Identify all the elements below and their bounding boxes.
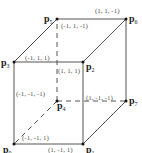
edge-p2-p6 (83, 19, 126, 62)
hidden-edges (14, 19, 126, 144)
vertex-dot-p3 (13, 61, 16, 64)
vertex-dot-p5 (56, 18, 59, 21)
vertex-label-p3: p3 (1, 57, 10, 69)
coord-label-p6: (1, 1, -1) (95, 7, 120, 15)
vertex-label-p5: p5 (44, 13, 53, 25)
vertex-dot-p0 (13, 143, 16, 146)
edge-p1-p7 (83, 101, 126, 144)
vertex-dot-p7 (125, 100, 128, 103)
vertex-label-p7: p7 (129, 95, 138, 107)
vertex-label-p1: p1 (86, 144, 95, 153)
vertex-dots (13, 18, 128, 146)
vertex-dot-p2 (82, 61, 85, 64)
coord-label-p4: (-1, -1, -1) (16, 90, 46, 98)
coord-label-p7: (1, -1, -1) (86, 94, 113, 102)
coord-label-p5: (-1, 1, -1) (61, 22, 88, 30)
vertex-dot-p1 (82, 143, 85, 146)
vertex-label-p4: p4 (57, 100, 66, 112)
vertex-label-p2: p2 (86, 61, 95, 73)
coord-label-p1: (1, -1, 1) (48, 146, 73, 153)
cube-diagram: p0 p1 p2 p3 p4 p5 p6 p7 (-1, -1, 1) (1, … (0, 0, 142, 153)
coord-label-p2: (1, 1, 1) (58, 67, 81, 75)
coord-label-p0: (-1, -1, 1) (22, 134, 49, 142)
coord-label-p3: (-1, 1, 1) (25, 54, 50, 62)
vertex-label-p6: p6 (129, 13, 138, 25)
vertex-label-p0: p0 (3, 144, 12, 153)
visible-edges (14, 19, 126, 144)
vertex-dot-p6 (125, 18, 128, 21)
